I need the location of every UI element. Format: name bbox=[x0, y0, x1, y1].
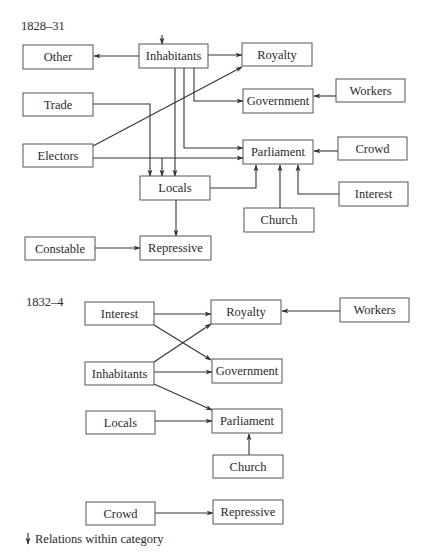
node-label: Interest bbox=[101, 307, 139, 321]
diagram-canvas: 1828–31 bbox=[0, 0, 429, 555]
node-label: Government bbox=[216, 364, 279, 378]
node-label: Repressive bbox=[148, 241, 203, 255]
node-parliament: Parliament bbox=[212, 409, 282, 433]
diagram-1828-31: 1828–31 bbox=[21, 19, 408, 260]
node-locals: Locals bbox=[140, 176, 210, 200]
node-interest: Interest bbox=[85, 302, 154, 325]
node-label: Crowd bbox=[103, 507, 138, 521]
node-workers: Workers bbox=[340, 298, 409, 322]
legend: Relations within category bbox=[28, 532, 164, 546]
node-crowd: Crowd bbox=[338, 137, 407, 160]
legend-text: Relations within category bbox=[35, 532, 164, 546]
edge-interest-parliament bbox=[298, 165, 339, 194]
node-label: Locals bbox=[158, 181, 191, 195]
node-label: Church bbox=[230, 460, 268, 474]
edge-inhabitants-parliament bbox=[184, 68, 243, 148]
node-interest: Interest bbox=[339, 182, 408, 206]
node-label: Locals bbox=[104, 416, 137, 430]
node-constable: Constable bbox=[25, 237, 95, 260]
node-label: Crowd bbox=[355, 142, 390, 156]
node-royalty: Royalty bbox=[211, 300, 281, 324]
node-government: Government bbox=[212, 359, 282, 383]
node-label: Parliament bbox=[220, 414, 275, 428]
node-label: Trade bbox=[44, 98, 73, 112]
node-label: Inhabitants bbox=[92, 367, 148, 381]
diagram-1832-4: 1832–4 Interest Royal bbox=[26, 295, 409, 525]
edge-inhabitants-parliament bbox=[154, 384, 212, 410]
node-label: Parliament bbox=[251, 145, 306, 159]
node-label: Workers bbox=[353, 303, 395, 317]
node-church: Church bbox=[244, 208, 314, 232]
node-crowd: Crowd bbox=[86, 502, 155, 525]
node-label: Electors bbox=[38, 149, 79, 163]
node-label: Royalty bbox=[257, 48, 297, 62]
node-other: Other bbox=[23, 45, 93, 69]
edge-locals-parliament bbox=[210, 165, 256, 188]
node-repressive: Repressive bbox=[213, 500, 283, 524]
node-label: Inhabitants bbox=[146, 49, 202, 63]
node-label: Royalty bbox=[226, 305, 266, 319]
node-label: Interest bbox=[355, 187, 393, 201]
node-label: Church bbox=[261, 213, 299, 227]
node-inhabitants: Inhabitants bbox=[85, 362, 154, 385]
node-repressive: Repressive bbox=[140, 236, 211, 260]
node-parliament: Parliament bbox=[243, 140, 313, 164]
node-royalty: Royalty bbox=[242, 43, 312, 66]
node-inhabitants: Inhabitants bbox=[139, 44, 208, 68]
node-label: Other bbox=[44, 50, 73, 64]
node-government: Government bbox=[243, 89, 313, 113]
edge-trade-locals bbox=[93, 104, 150, 176]
edge-electors-royalty bbox=[93, 67, 242, 146]
node-electors: Electors bbox=[23, 144, 93, 167]
node-label: Government bbox=[247, 94, 310, 108]
edge-inhabitants-government bbox=[194, 68, 243, 101]
node-church: Church bbox=[213, 455, 283, 478]
node-label: Constable bbox=[35, 242, 85, 256]
node-workers: Workers bbox=[336, 79, 405, 102]
node-locals: Locals bbox=[86, 411, 155, 434]
section-label-1828-31: 1828–31 bbox=[21, 19, 65, 33]
node-label: Workers bbox=[349, 84, 391, 98]
node-label: Repressive bbox=[221, 505, 276, 519]
section-label-1832-4: 1832–4 bbox=[26, 295, 64, 309]
node-trade: Trade bbox=[23, 93, 93, 116]
